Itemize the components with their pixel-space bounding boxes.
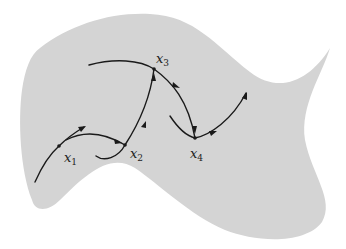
point-x4 [193,136,197,140]
point-x3 [152,67,156,71]
point-x1 [57,144,61,148]
manifold-region [20,14,330,239]
point-x2 [123,143,127,147]
diagram-canvas: x1 x2 x3 x4 [0,0,346,249]
